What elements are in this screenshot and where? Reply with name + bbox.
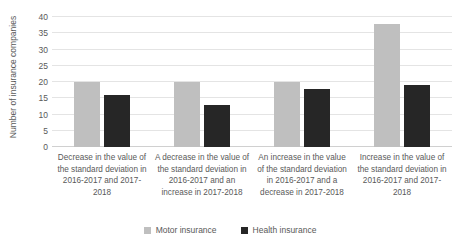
bar [274,82,300,147]
bar [304,89,330,148]
bar [374,24,400,148]
bar [174,82,200,147]
bar [104,95,130,147]
legend-item[interactable]: Health insurance [241,225,317,235]
plot-area [52,17,452,147]
category-label: A decrease in the value of the standard … [152,152,252,198]
y-axis-tick-label: 20 [24,78,48,87]
legend-label: Motor insurance [156,225,217,235]
bars-layer [52,17,452,147]
y-axis-tick-labels: 0510152025303540 [24,17,48,147]
chart-legend: Motor insuranceHealth insurance [0,222,460,238]
category-label: Increase in the value of the standard de… [352,152,452,198]
legend-label: Health insurance [253,225,317,235]
bar [404,85,430,147]
y-axis-tick-label: 0 [24,143,48,152]
legend-swatch-icon [144,227,151,234]
bar-chart: Number of insurance companies 0510152025… [0,0,460,247]
y-axis-tick-label: 25 [24,61,48,70]
y-axis-tick-label: 35 [24,29,48,38]
y-axis-title: Number of insurance companies [4,2,22,152]
y-axis-tick-label: 30 [24,45,48,54]
y-axis-tick-label: 5 [24,126,48,135]
y-axis-tick-label: 10 [24,110,48,119]
legend-item[interactable]: Motor insurance [144,225,217,235]
y-axis-tick-label: 40 [24,13,48,22]
legend-swatch-icon [241,227,248,234]
category-label: An increase in the value of the standard… [252,152,352,198]
y-axis-tick-label: 15 [24,94,48,103]
bar [74,82,100,147]
category-label: Decrease in the value of the standard de… [52,152,152,198]
category-axis-labels: Decrease in the value of the standard de… [52,152,452,212]
bar [204,105,230,147]
